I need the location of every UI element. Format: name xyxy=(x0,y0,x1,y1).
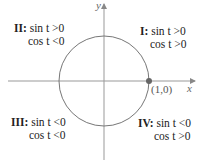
quadrant-iii-roman: III xyxy=(11,116,24,128)
quadrant-ii-sin: sin t >0 xyxy=(30,22,65,34)
quadrant-i-cos: cos t >0 xyxy=(140,38,187,51)
y-axis-label: y xyxy=(96,0,101,11)
quadrant-iii-sin: sin t <0 xyxy=(31,116,66,128)
quadrant-iv-sin: sin t <0 xyxy=(156,117,191,129)
point-label: (1,0) xyxy=(151,83,172,95)
quadrant-i-label: I: sin t >0 cos t >0 xyxy=(140,25,187,51)
quadrant-i-sin: sin t >0 xyxy=(151,25,186,37)
quadrant-iii-cos: cos t <0 xyxy=(11,129,66,142)
quadrant-iii-label: III: sin t <0 cos t <0 xyxy=(11,116,66,142)
quadrant-iv-roman: IV xyxy=(138,117,150,129)
x-axis-label: x xyxy=(187,82,192,94)
quadrant-ii-roman: II xyxy=(14,22,23,34)
quadrant-iv-cos: cos t >0 xyxy=(138,130,191,143)
quadrant-ii-cos: cos t <0 xyxy=(14,35,65,48)
quadrant-iv-label: IV: sin t <0 cos t >0 xyxy=(138,117,191,143)
quadrant-ii-label: II: sin t >0 cos t <0 xyxy=(14,22,65,48)
